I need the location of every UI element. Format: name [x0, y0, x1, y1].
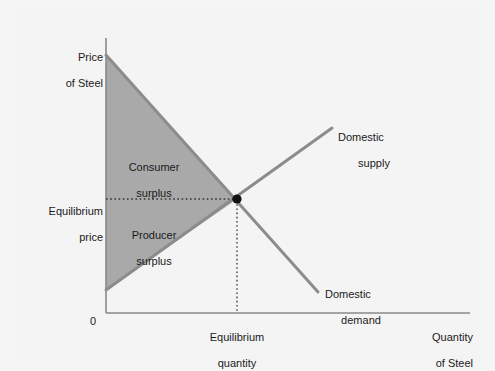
domestic-demand-label-line2: demand — [325, 314, 405, 327]
consumer-surplus-label-line2: surplus — [114, 187, 194, 200]
domestic-demand-label: Domestic demand — [325, 275, 405, 340]
domestic-supply-label-line2: supply — [338, 157, 418, 170]
figure-container: Price of Steel Quantity of Steel 0 Equil… — [0, 0, 495, 371]
consumer-surplus-label-line1: Consumer — [114, 161, 194, 174]
producer-surplus-label: Producer surplus — [114, 216, 194, 281]
origin-label: 0 — [86, 315, 100, 328]
producer-surplus-label-line1: Producer — [114, 229, 194, 242]
consumer-surplus-label: Consumer surplus — [114, 148, 194, 213]
y-axis-title: Price of Steel — [0, 38, 103, 103]
equilibrium-price-label-line1: Equilibrium — [0, 205, 103, 218]
equilibrium-price-label-line2: price — [0, 231, 103, 244]
domestic-supply-label-line1: Domestic — [338, 131, 418, 144]
equilibrium-quantity-label: Equilibrium quantity — [182, 318, 292, 371]
equilibrium-price-label: Equilibrium price — [0, 192, 103, 257]
equilibrium-point-marker — [232, 194, 241, 203]
x-axis-title: Quantity of Steel — [395, 318, 473, 371]
y-axis-title-line1: Price — [0, 51, 103, 64]
y-axis-title-line2: of Steel — [0, 77, 103, 90]
equilibrium-quantity-label-line1: Equilibrium — [182, 331, 292, 344]
x-axis-title-line1: Quantity — [395, 331, 473, 344]
domestic-demand-label-line1: Domestic — [325, 288, 405, 301]
equilibrium-quantity-label-line2: quantity — [182, 357, 292, 370]
producer-surplus-label-line2: surplus — [114, 255, 194, 268]
x-axis-title-line2: of Steel — [395, 357, 473, 370]
domestic-supply-label: Domestic supply — [338, 118, 418, 183]
